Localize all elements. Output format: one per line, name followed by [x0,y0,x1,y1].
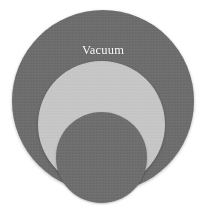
nested-circles-diagram: Vacuum Cryogenics Superconductivity [0,0,209,214]
circle-label-vacuum: Vacuum [12,43,194,58]
circle-superconductivity[interactable]: Superconductivity [56,112,147,203]
